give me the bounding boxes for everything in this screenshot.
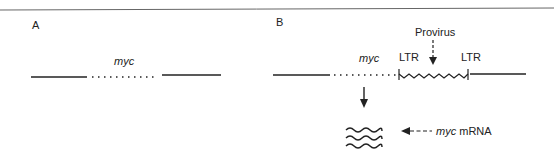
panel-b-myc-label: myc xyxy=(359,52,380,64)
panel-a-dna xyxy=(31,75,221,77)
mrna-label: myc mRNA xyxy=(436,125,492,137)
mrna-pointer-arrow xyxy=(401,127,432,135)
mrna-wavy-lines xyxy=(346,128,382,148)
mrna-label-rest: mRNA xyxy=(456,125,492,137)
top-border xyxy=(0,8,554,10)
panel-a-myc-label: myc xyxy=(114,55,135,67)
provirus-zigzag xyxy=(399,74,468,78)
ltr-right-label: LTR xyxy=(461,51,481,63)
diagram-canvas: A myc B Provirus myc LTR LTR xyxy=(0,0,554,156)
panel-a-label: A xyxy=(32,19,40,31)
panel-b-dna xyxy=(273,69,526,80)
provirus-label: Provirus xyxy=(415,26,456,38)
transcription-arrow xyxy=(360,87,368,108)
panel-b-label: B xyxy=(276,16,283,28)
ltr-left-label: LTR xyxy=(399,51,419,63)
provirus-arrow xyxy=(429,40,437,65)
mrna-label-myc: myc xyxy=(436,125,457,137)
